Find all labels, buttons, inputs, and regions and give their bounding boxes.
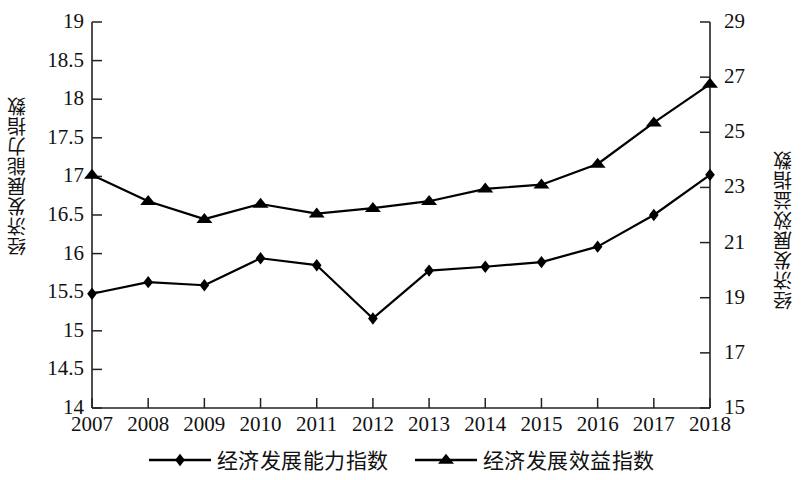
chart-legend: 经济发展能力指数经济发展效益指数: [0, 444, 803, 474]
series-1-marker: [537, 256, 547, 268]
left-tick-label: 17.5: [12, 127, 84, 148]
left-tick-label: 18: [12, 88, 84, 109]
right-tick-label: 27: [724, 66, 764, 87]
left-tick-label: 17: [12, 165, 84, 186]
x-tick-label: 2012: [343, 414, 403, 435]
triangle-marker-icon: [415, 448, 477, 470]
series-1-marker: [256, 252, 266, 264]
series-1-marker: [143, 276, 153, 288]
axes: [92, 22, 710, 408]
left-tick-label: 18.5: [12, 50, 84, 71]
dual-axis-line-chart: 经济发展能力指数 经济发展效益指数 1414.51515.51616.51717…: [0, 0, 803, 480]
legend-label: 经济发展能力指数: [217, 444, 389, 474]
right-tick-label: 29: [724, 11, 764, 32]
left-tick-label: 15.5: [12, 281, 84, 302]
series-2-marker: [84, 169, 100, 179]
y-axis-right-title: 经济发展效益指数: [770, 150, 797, 310]
left-axis-ticks: [92, 22, 102, 408]
x-axis-ticks: [92, 398, 710, 408]
left-tick-label: 15: [12, 320, 84, 341]
series-1-marker: [649, 209, 659, 221]
x-tick-label: 2013: [399, 414, 459, 435]
x-tick-label: 2014: [455, 414, 515, 435]
right-tick-label: 17: [724, 342, 764, 363]
x-tick-label: 2009: [174, 414, 234, 435]
x-tick-label: 2015: [511, 414, 571, 435]
series-1-marker: [593, 240, 603, 252]
series-1-marker: [87, 288, 97, 300]
series-lines: [92, 84, 710, 318]
right-tick-label: 19: [724, 287, 764, 308]
x-tick-label: 2008: [118, 414, 178, 435]
series-1-marker: [424, 264, 434, 276]
x-tick-label: 2007: [62, 414, 122, 435]
plot-area: [0, 0, 803, 480]
series-2-marker: [702, 78, 718, 88]
legend-entry-2[interactable]: 经济发展效益指数: [415, 444, 655, 474]
series-2-marker: [253, 198, 269, 208]
series-line-1: [92, 175, 710, 319]
series-markers: [84, 78, 718, 325]
left-tick-label: 19: [12, 11, 84, 32]
right-tick-label: 21: [724, 232, 764, 253]
x-tick-label: 2017: [624, 414, 684, 435]
right-tick-label: 25: [724, 121, 764, 142]
legend-label: 经济发展效益指数: [483, 444, 655, 474]
legend-entry-1[interactable]: 经济发展能力指数: [149, 444, 389, 474]
x-tick-label: 2018: [680, 414, 740, 435]
right-tick-label: 23: [724, 176, 764, 197]
x-tick-label: 2016: [568, 414, 628, 435]
diamond-marker-icon: [149, 448, 211, 470]
series-1-marker: [200, 279, 210, 291]
series-2-marker: [140, 195, 156, 205]
series-1-marker: [480, 261, 490, 273]
series-line-2: [92, 84, 710, 219]
left-tick-label: 14.5: [12, 358, 84, 379]
x-tick-label: 2010: [231, 414, 291, 435]
x-tick-label: 2011: [287, 414, 347, 435]
series-1-marker: [705, 169, 715, 181]
left-tick-label: 16: [12, 243, 84, 264]
left-tick-label: 16.5: [12, 204, 84, 225]
